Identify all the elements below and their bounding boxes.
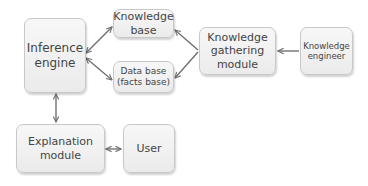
node-label: Explanation module [28,135,93,161]
arrow-inference-database [86,58,112,80]
node-data-base: Data base (facts base) [113,61,174,93]
node-inference-engine: Inference engine [24,18,86,93]
arrow-inference-knowledgebase [86,27,112,53]
node-knowledge-engineer: Knowledge engineer [300,27,353,75]
node-label: Data base (facts base) [117,66,170,88]
arrow-gathering-database [175,52,198,78]
node-label: User [136,142,161,155]
node-knowledge-gathering-module: Knowledge gathering module [199,27,276,75]
node-explanation-module: Explanation module [16,124,105,173]
node-label: Inference engine [27,41,83,70]
node-label: Knowledge gathering module [207,31,267,71]
node-knowledge-base: Knowledge base [113,9,174,38]
node-label: Knowledge base [113,10,173,36]
node-user: User [123,124,175,173]
arrow-gathering-knowledgebase [175,30,198,50]
node-label: Knowledge engineer [303,41,350,61]
